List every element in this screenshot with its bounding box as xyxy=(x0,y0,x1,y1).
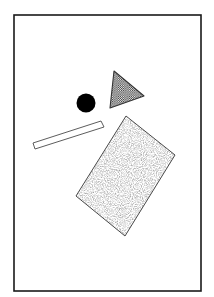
figure-canvas xyxy=(0,0,214,297)
shapes-svg xyxy=(0,0,214,297)
shape-circle xyxy=(77,94,96,113)
